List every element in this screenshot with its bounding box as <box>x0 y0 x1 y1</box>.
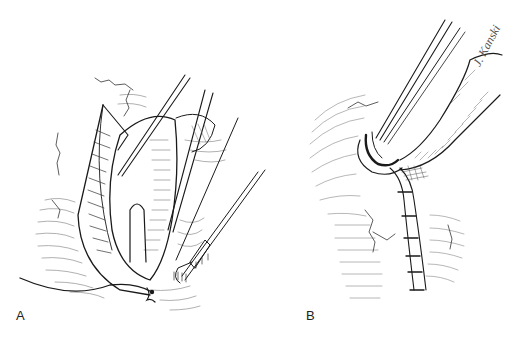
panel-a-illustration <box>0 0 280 345</box>
panel-b: J. Kanski B <box>280 0 516 345</box>
panel-label-a: A <box>16 308 25 323</box>
surgical-illustration-figure: A <box>0 0 516 345</box>
panel-label-b: B <box>306 308 315 323</box>
panel-a: A <box>0 0 280 345</box>
